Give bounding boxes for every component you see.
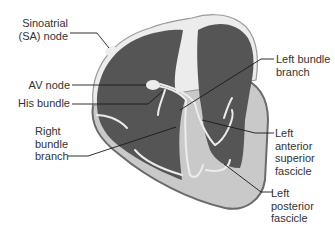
label-line: Left bundle	[276, 53, 330, 66]
label-line: superior	[275, 152, 315, 165]
label-line: fascicle	[271, 212, 314, 225]
label-line: Right	[35, 125, 69, 138]
label-his-bundle: His bundle	[10, 97, 70, 110]
av-node	[146, 80, 160, 90]
label-line: bundle	[35, 138, 69, 151]
label-line: (SA) node	[16, 30, 68, 43]
label-sa-node: Sinoatrial (SA) node	[16, 17, 68, 42]
leader-sa-node	[70, 33, 109, 48]
label-left-posterior-fascicle: Left posterior fascicle	[271, 187, 314, 225]
label-left-anterior-superior-fascicle: Left anterior superior fascicle	[275, 127, 315, 177]
label-line: branch	[35, 150, 69, 163]
label-left-bundle-branch: Left bundle branch	[276, 53, 330, 78]
label-line: Left	[275, 127, 315, 140]
label-line: anterior	[275, 140, 315, 153]
label-right-bundle-branch: Right bundle branch	[35, 125, 69, 163]
label-line: branch	[276, 66, 330, 79]
label-line: His bundle	[10, 97, 70, 110]
label-line: AV node	[20, 79, 70, 92]
label-line: Left	[271, 187, 314, 200]
label-line: fascicle	[275, 165, 315, 178]
label-line: posterior	[271, 200, 314, 213]
label-av-node: AV node	[20, 79, 70, 92]
label-line: Sinoatrial	[16, 17, 68, 30]
